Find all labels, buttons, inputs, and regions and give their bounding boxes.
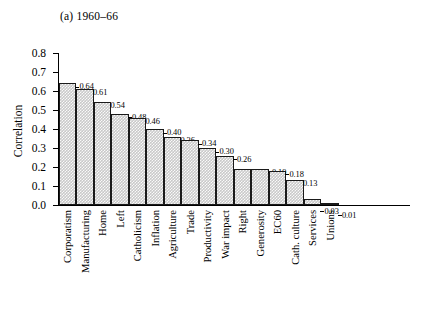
bar: 0.48 <box>111 114 129 205</box>
bar: 0.13 <box>286 180 304 205</box>
y-tick-label: 0.5 <box>32 104 46 116</box>
y-tick-label: 0.0 <box>32 199 46 211</box>
x-category-cell: Unions <box>321 208 339 306</box>
y-tick-label: 0.4 <box>32 123 46 135</box>
y-tick-0.7: 0.7 <box>53 72 58 73</box>
x-category-cell: Home <box>94 208 112 306</box>
bar-series: 0.640.610.540.480.460.400.360.340.300.26… <box>59 53 339 205</box>
x-category-cell: Left <box>111 208 129 306</box>
x-category-label: Agriculture <box>167 210 178 259</box>
x-category-cell: War impact <box>216 208 234 306</box>
bar-value-label: 0.26 <box>237 156 251 164</box>
x-category-cell: Manufacturing <box>76 208 94 306</box>
bar: 0.01 <box>321 203 339 205</box>
x-category-label: Corporatism <box>62 210 73 263</box>
y-axis-label: Correlation <box>12 76 24 186</box>
bar: 0.36 <box>164 137 182 205</box>
x-category-label: Trade <box>184 210 195 234</box>
chart-title: (a) 1960–66 <box>60 10 118 22</box>
x-category-label: Catholicism <box>132 210 143 261</box>
y-tick-label: 0.3 <box>32 142 46 154</box>
bar: 0.03 <box>304 199 322 205</box>
x-axis-category-labels: CorporatismManufacturingHomeLeftCatholic… <box>59 208 339 306</box>
x-category-label: Home <box>97 210 108 236</box>
bar: 0.26 <box>216 156 234 205</box>
x-category-cell: Inflation <box>146 208 164 306</box>
x-category-label: Manufacturing <box>79 210 90 273</box>
x-axis-line <box>58 205 410 206</box>
x-category-label: Services <box>307 210 318 246</box>
y-tick-label: 0.1 <box>32 180 46 192</box>
x-category-cell: Trade <box>181 208 199 306</box>
bar: 0.46 <box>129 118 147 205</box>
y-tick-0.1: 0.1 <box>53 186 58 187</box>
bar-value-label: 0.54 <box>110 102 124 110</box>
bar: 0.19 <box>234 169 252 205</box>
x-category-cell: Right <box>234 208 252 306</box>
x-category-label: Generosity <box>254 210 265 256</box>
x-category-cell: Generosity <box>251 208 269 306</box>
x-category-label: Inflation <box>149 210 160 246</box>
x-category-cell: Productivity <box>199 208 217 306</box>
x-category-label: Unions <box>324 210 335 241</box>
x-category-label: Right <box>237 210 248 234</box>
bar-value-label: 0.18 <box>289 171 303 179</box>
bar: 0.61 <box>76 89 94 205</box>
bar-value-label: 0.13 <box>303 180 317 188</box>
bar: 0.30 <box>199 148 217 205</box>
y-tick-0.8: 0.8 <box>53 53 58 54</box>
y-tick-0.2: 0.2 <box>53 167 58 168</box>
figure-panel: (a) 1960–66 Correlation 0.80.70.60.50.40… <box>0 0 425 312</box>
x-category-cell: Services <box>304 208 322 306</box>
bar: 0.54 <box>94 102 112 205</box>
y-tick-0.5: 0.5 <box>53 110 58 111</box>
x-category-cell: Corporatism <box>59 208 77 306</box>
x-category-cell: Agriculture <box>164 208 182 306</box>
bar: 0.40 <box>146 129 164 205</box>
x-category-label: War impact <box>219 210 230 259</box>
x-category-label: Left <box>114 210 125 228</box>
bar-value-label: 0.46 <box>145 118 159 126</box>
y-tick-label: 0.8 <box>32 47 46 59</box>
bar: 0.19 <box>251 169 269 205</box>
plot-area: 0.80.70.60.50.40.30.20.10.0 0.640.610.54… <box>58 53 410 205</box>
x-category-cell: EC60 <box>269 208 287 306</box>
bar: 0.64 <box>59 83 77 205</box>
y-tick-0.0: 0.0 <box>53 205 58 206</box>
x-category-label: Productivity <box>202 210 213 262</box>
bar: 0.18 <box>269 171 287 205</box>
y-tick-0.6: 0.6 <box>53 91 58 92</box>
x-category-cell: Cath. culture <box>286 208 304 306</box>
x-category-cell: Catholicism <box>129 208 147 306</box>
y-tick-label: 0.7 <box>32 66 46 78</box>
y-tick-0.3: 0.3 <box>53 148 58 149</box>
y-tick-label: 0.6 <box>32 85 46 97</box>
bar-value-label: 0.61 <box>93 89 107 97</box>
bar: 0.34 <box>181 140 199 205</box>
y-tick-0.4: 0.4 <box>53 129 58 130</box>
x-category-label: EC60 <box>272 210 283 234</box>
y-tick-label: 0.2 <box>32 161 46 173</box>
x-category-label: Cath. culture <box>289 210 300 265</box>
bar-value-label: 0.01 <box>342 212 356 220</box>
